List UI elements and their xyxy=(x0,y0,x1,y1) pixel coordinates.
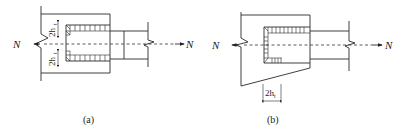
panel-b-dim-label: 2ht xyxy=(265,88,276,99)
panel-b-diagram xyxy=(232,12,382,103)
panel-a-outgoing-member xyxy=(110,22,154,67)
panel-a-dim-bottom-sub: t xyxy=(52,52,58,54)
panel-b-outgoing-member xyxy=(310,21,355,71)
panel-a-force-label-right: N xyxy=(185,38,194,50)
panel-a-hatch-top xyxy=(66,25,110,35)
figure-canvas: N N 2h t 2h t (a) xyxy=(0,0,401,138)
panel-a-dim-top-sub: t xyxy=(52,23,58,25)
panel-a-inner-member xyxy=(66,25,110,61)
panel-a-caption: (a) xyxy=(83,114,94,126)
panel-a-dim-bottom-label: 2h xyxy=(47,57,57,67)
panel-b-hatch-top xyxy=(264,27,310,33)
panel-a-dim-top-label: 2h xyxy=(47,28,57,38)
panel-b-force-label-right: N xyxy=(384,39,393,51)
panel-a-hatch-bottom xyxy=(66,51,110,61)
panel-a-body-outline xyxy=(35,6,110,81)
panel-b-hatch-left xyxy=(264,33,268,58)
panel-b-inner-member xyxy=(264,27,310,63)
panel-b-force-label-left: N xyxy=(211,39,220,51)
panel-a-diagram xyxy=(34,6,184,81)
panel-a-force-label-left: N xyxy=(12,38,21,50)
panel-b-caption: (b) xyxy=(267,114,279,126)
panel-b-hatch-bottom xyxy=(264,58,282,63)
panel-b-body-outline xyxy=(236,12,310,86)
